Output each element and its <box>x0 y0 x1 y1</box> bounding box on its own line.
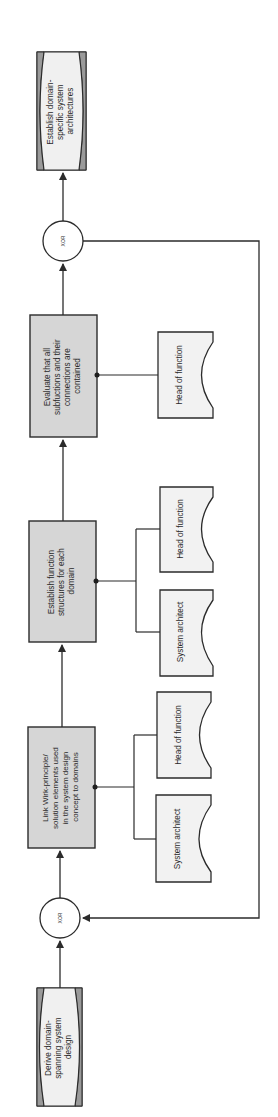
role-label: Head of function <box>176 499 185 559</box>
role-label: System architect <box>176 601 185 662</box>
role-edges <box>95 375 160 839</box>
event-end: Establish domain- specific system archit… <box>37 52 86 170</box>
role-establish-system-architect: System architect <box>160 590 213 676</box>
xor-top-label: XOR <box>60 235 66 246</box>
role-evaluate-head-of-function: Head of function <box>158 332 213 418</box>
process-diagram: Establish domain- specific system archit… <box>0 0 278 1117</box>
role-label: Head of function <box>174 705 183 765</box>
function-evaluate: Evaluate that all subfuctions and their … <box>30 315 97 437</box>
function-link-text: Link Wirk-principle/ solution elements u… <box>41 745 80 829</box>
function-establish: Establish function structures for each d… <box>29 521 96 642</box>
role-label: Head of function <box>175 345 184 405</box>
event-start: Derive domain- spanning system design <box>37 988 82 1106</box>
function-link: Link Wirk-principle/ solution elements u… <box>28 727 95 848</box>
role-establish-head-of-function: Head of function <box>160 487 213 572</box>
role-link-system-architect: System architect <box>156 795 211 882</box>
xor-bottom-label: XOR <box>57 912 63 923</box>
xor-connector-bottom: XOR <box>40 898 80 938</box>
role-link-head-of-function: Head of function <box>157 692 211 778</box>
role-label: System architect <box>173 808 182 869</box>
xor-connector-top: XOR <box>43 221 83 261</box>
